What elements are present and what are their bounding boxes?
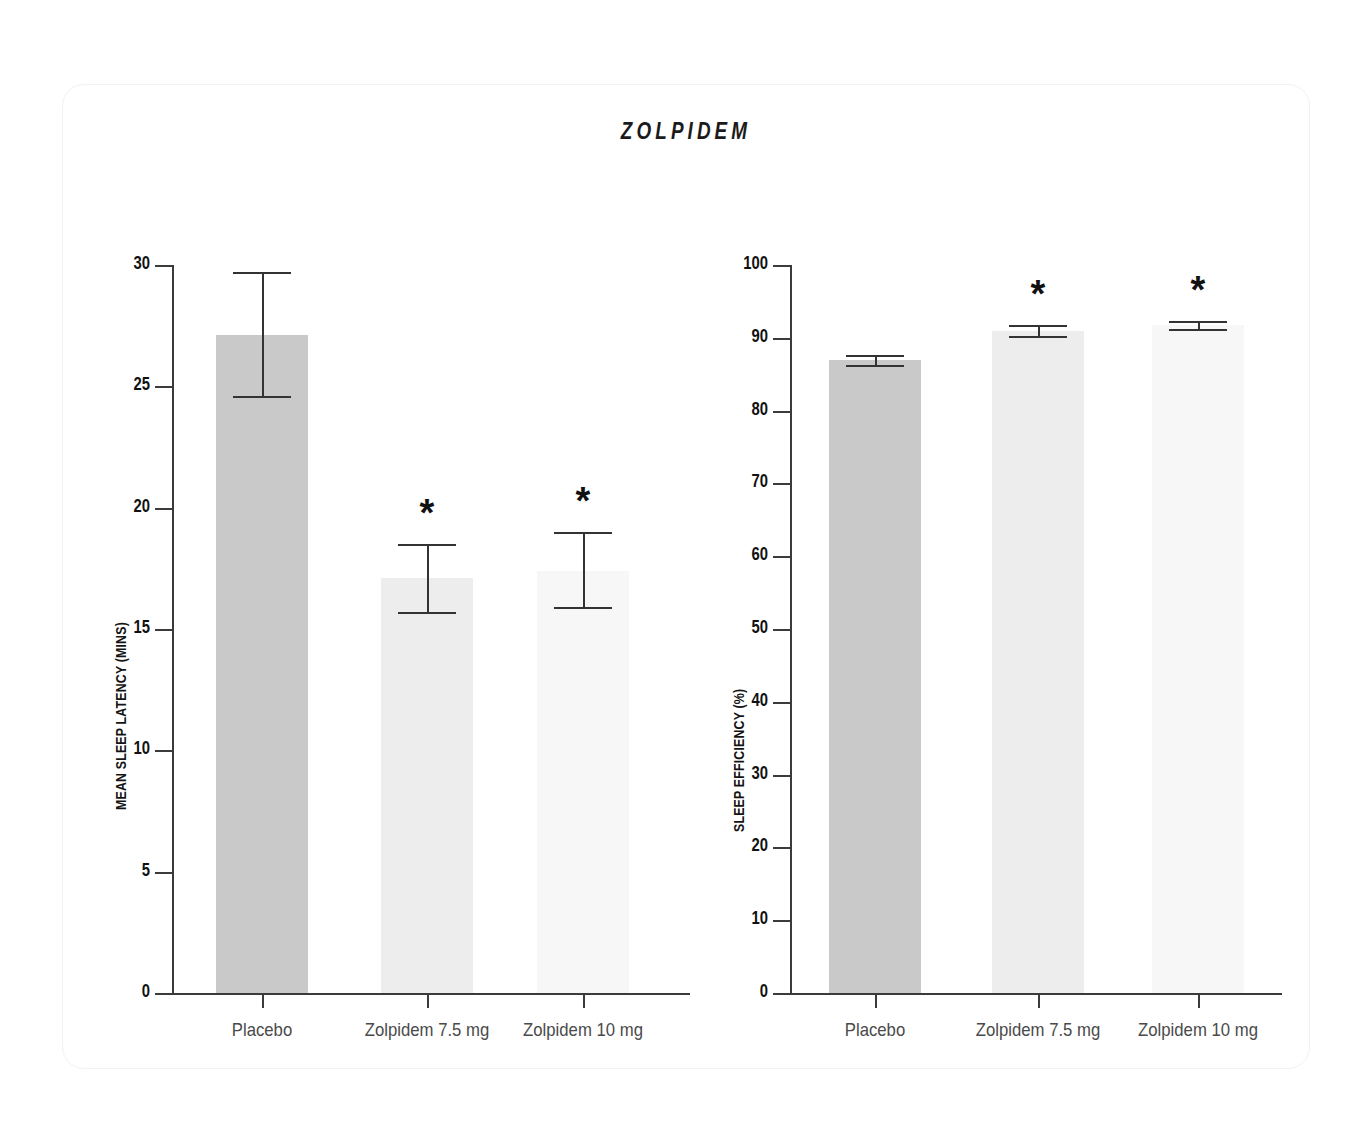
y-axis-tick-label: 80 [721, 398, 768, 420]
error-bar-cap-lower [1009, 336, 1067, 338]
y-axis-tick [773, 920, 790, 922]
y-axis-tick-label: 10 [721, 907, 768, 929]
y-axis-tick [773, 556, 790, 558]
significance-star: * [553, 482, 613, 520]
y-axis-spine [172, 265, 174, 993]
bar-sleep-efficiency-1 [992, 331, 1084, 993]
x-axis-tick [427, 993, 429, 1008]
y-axis-tick [773, 411, 790, 413]
y-axis-tick [155, 629, 172, 631]
y-axis-tick-label: 90 [721, 325, 768, 347]
y-axis-tick [773, 993, 790, 995]
error-bar-cap-lower [1169, 329, 1227, 331]
y-axis-tick-label: 30 [721, 762, 768, 784]
y-axis-tick-label: 5 [103, 859, 150, 881]
y-axis-tick [155, 508, 172, 510]
error-bar-cap-upper [1009, 325, 1067, 327]
y-axis-tick-label: 50 [721, 616, 768, 638]
significance-star: * [1008, 275, 1068, 313]
chart-panel-sleep-latency: MEAN SLEEP LATENCY (MINS) 051015202530Pl… [0, 0, 686, 1133]
error-bar-cap-lower [398, 612, 456, 614]
error-bar-cap-upper [554, 532, 612, 534]
y-axis-tick [773, 483, 790, 485]
y-axis-tick [773, 702, 790, 704]
y-axis-tick-label: 70 [721, 470, 768, 492]
y-axis-tick-label: 15 [103, 616, 150, 638]
y-axis-tick-label: 30 [103, 252, 150, 274]
error-bar-line [427, 544, 429, 612]
y-axis-tick-label: 20 [103, 495, 150, 517]
y-axis-spine [790, 265, 792, 993]
bar-sleep-efficiency-0 [829, 360, 921, 993]
error-bar-cap-upper [398, 544, 456, 546]
y-axis-tick-label: 0 [103, 980, 150, 1002]
y-axis-tick [155, 265, 172, 267]
error-bar-cap-upper [846, 355, 904, 357]
y-axis-tick [155, 750, 172, 752]
x-axis-category-label: Zolpidem 10 mg [1092, 1019, 1303, 1041]
y-axis-label-left: MEAN SLEEP LATENCY (MINS) [112, 622, 130, 810]
bar-sleep-latency-1 [381, 578, 473, 993]
y-axis-tick [773, 629, 790, 631]
y-axis-tick [155, 386, 172, 388]
error-bar-line [262, 272, 264, 396]
x-axis-spine [790, 993, 1282, 995]
significance-star: * [1168, 271, 1228, 309]
y-axis-tick [155, 872, 172, 874]
error-bar-cap-lower [846, 365, 904, 367]
chart-panel-sleep-efficiency: SLEEP EFFICIENCY (%) 0102030405060708090… [610, 0, 1296, 1133]
bar-sleep-efficiency-2 [1152, 325, 1244, 993]
y-axis-tick-label: 25 [103, 373, 150, 395]
y-axis-tick-label: 100 [721, 252, 768, 274]
error-bar-cap-lower [233, 396, 291, 398]
y-axis-tick [773, 847, 790, 849]
y-axis-tick-label: 0 [721, 980, 768, 1002]
y-axis-tick-label: 20 [721, 834, 768, 856]
x-axis-tick [583, 993, 585, 1008]
bar-sleep-latency-0 [216, 335, 308, 993]
error-bar-line [583, 532, 585, 607]
x-axis-tick [875, 993, 877, 1008]
significance-star: * [397, 494, 457, 532]
error-bar-cap-lower [554, 607, 612, 609]
y-axis-tick [773, 338, 790, 340]
x-axis-tick [262, 993, 264, 1008]
y-axis-tick [773, 775, 790, 777]
y-axis-tick-label: 10 [103, 737, 150, 759]
y-axis-tick-label: 40 [721, 689, 768, 711]
x-axis-tick [1198, 993, 1200, 1008]
error-bar-cap-upper [233, 272, 291, 274]
x-axis-tick [1038, 993, 1040, 1008]
y-axis-tick [773, 265, 790, 267]
error-bar-cap-upper [1169, 321, 1227, 323]
y-axis-tick-label: 60 [721, 543, 768, 565]
figure-page: ZOLPIDEM MEAN SLEEP LATENCY (MINS) 05101… [0, 0, 1372, 1133]
y-axis-tick [155, 993, 172, 995]
